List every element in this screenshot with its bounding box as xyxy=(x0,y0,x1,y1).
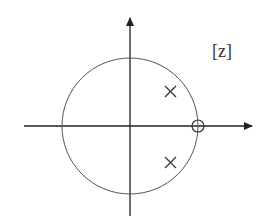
pole-marker-upper xyxy=(165,86,176,97)
pole-marker-lower xyxy=(165,157,176,168)
plane-label: [z] xyxy=(212,41,232,62)
z-plane-diagram xyxy=(0,0,261,216)
